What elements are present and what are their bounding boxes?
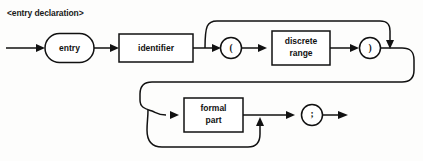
node-identifier-label: identifier: [138, 43, 175, 53]
railroad-diagram-graphic: entry identifier ( discrete range ): [0, 0, 423, 161]
node-open-paren-label: (: [229, 43, 232, 54]
arrowhead-bypass-formal-part-rejoin: [256, 117, 264, 126]
arrowhead-into-formal-part: [170, 111, 179, 119]
syntax-diagram-canvas: <entry declaration> entry identifier (: [0, 0, 423, 161]
arrowhead-into-discrete-range: [258, 44, 267, 52]
arrowhead-into-semicolon: [286, 111, 295, 119]
track-row2-entry-curve: [140, 100, 166, 115]
arrowhead-diagram-exit: [338, 111, 348, 119]
node-discrete-range-label-line2: range: [289, 48, 312, 58]
node-close-paren-label: ): [368, 43, 371, 54]
node-discrete-range-label-line1: discrete: [285, 36, 318, 46]
arrowhead-into-entry: [36, 44, 45, 52]
node-entry-keyword-label: entry: [59, 43, 80, 53]
node-formal-part-label-line2: part: [205, 115, 221, 125]
node-semicolon-label: ;: [310, 109, 313, 119]
node-formal-part-label-line1: formal: [201, 103, 227, 113]
arrowhead-into-open-paren: [212, 44, 221, 52]
arrowhead-into-close-paren: [350, 44, 359, 52]
arrowhead-into-identifier: [110, 44, 119, 52]
